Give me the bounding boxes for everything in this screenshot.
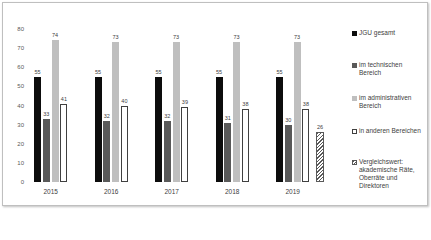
x-tick-label: 2018 <box>217 188 247 195</box>
bar-jgu-gesamt <box>155 77 162 182</box>
bar-jgu-gesamt <box>95 77 102 182</box>
y-tick-label: 70 <box>10 45 24 51</box>
x-tick-label: 2019 <box>278 188 308 195</box>
value-label: 26 <box>312 124 328 130</box>
legend-label: im technischen Bereich <box>359 61 425 77</box>
legend-item-jgu-gesamt: JGU gesamt <box>352 29 425 37</box>
value-label: 73 <box>168 34 184 40</box>
x-tick-label: 2016 <box>96 188 126 195</box>
value-label: 38 <box>237 101 253 107</box>
x-tick-label: 2015 <box>36 188 66 195</box>
y-tick-label: 60 <box>10 64 24 70</box>
y-tick-label: 0 <box>10 179 24 185</box>
value-label: 55 <box>272 69 288 75</box>
value-label: 55 <box>151 69 167 75</box>
bar-jgu-gesamt <box>34 77 41 182</box>
legend-label: im administrativen Bereich <box>359 94 425 110</box>
legend-label: Vergleichswert: akademische Räte, Oberrä… <box>359 158 425 190</box>
bar-jgu-gesamt <box>216 77 223 182</box>
bar-andere <box>121 106 128 183</box>
bar-technisch <box>103 121 110 182</box>
y-tick-label: 40 <box>10 103 24 109</box>
value-label: 73 <box>289 34 305 40</box>
bar-technisch <box>43 119 50 182</box>
bar-andere <box>242 109 249 182</box>
legend-item-vergleichswert: Vergleichswert: akademische Räte, Oberrä… <box>352 158 425 190</box>
value-label: 39 <box>177 99 193 105</box>
legend-label: in anderen Bereichen <box>359 127 425 135</box>
bar-administrativ <box>112 42 119 182</box>
value-label: 74 <box>47 32 63 38</box>
x-tick-label: 2017 <box>157 188 187 195</box>
bar-andere <box>181 107 188 182</box>
y-tick-label: 10 <box>10 160 24 166</box>
value-label: 55 <box>211 69 227 75</box>
legend-swatch-black-icon <box>352 31 357 36</box>
y-tick-label: 20 <box>10 141 24 147</box>
legend-label: JGU gesamt <box>359 29 425 37</box>
bar-administrativ <box>294 42 301 182</box>
value-label: 38 <box>298 101 314 107</box>
bar-administrativ <box>173 42 180 182</box>
legend-swatch-hatched-icon <box>352 160 357 165</box>
value-label: 55 <box>30 69 46 75</box>
y-tick-label: 50 <box>10 83 24 89</box>
legend-item-andere: in anderen Bereichen <box>352 127 425 135</box>
y-tick-label: 30 <box>10 122 24 128</box>
y-tick-label: 80 <box>10 26 24 32</box>
value-label: 73 <box>108 34 124 40</box>
legend-item-administrativ: im administrativen Bereich <box>352 94 425 110</box>
legend-swatch-lightgrey-icon <box>352 96 357 101</box>
bar-administrativ <box>233 42 240 182</box>
value-label: 40 <box>116 98 132 104</box>
value-label: 73 <box>229 34 245 40</box>
value-label: 55 <box>90 69 106 75</box>
legend-item-technisch: im technischen Bereich <box>352 61 425 77</box>
bar-andere <box>60 104 67 182</box>
value-label: 41 <box>56 96 72 102</box>
bar-technisch <box>285 125 292 182</box>
bar-administrativ <box>52 40 59 182</box>
bar-technisch <box>164 121 171 182</box>
legend-swatch-white-icon <box>352 129 357 134</box>
legend-swatch-darkgrey-icon <box>352 63 357 68</box>
bar-andere <box>302 109 309 182</box>
bar-vergleichswert <box>316 132 324 182</box>
bar-technisch <box>224 123 231 182</box>
bar-jgu-gesamt <box>276 77 283 182</box>
